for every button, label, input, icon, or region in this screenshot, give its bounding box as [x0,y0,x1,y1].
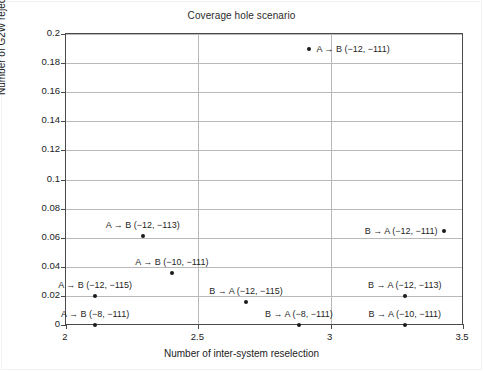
gridline-horizontal [66,238,462,239]
data-point-label: B → A (−12, −111) [365,226,438,236]
data-point-label: B → A (−12, −113) [368,280,441,290]
data-point [93,323,97,327]
gridline-horizontal [66,34,462,35]
gridline-horizontal [66,267,462,268]
tick-mark-y [61,209,66,210]
data-point [170,271,174,275]
y-tick-label: 0 [55,318,60,329]
gridline-horizontal [66,180,462,181]
x-axis-title: Number of inter-system reselection [0,348,483,359]
data-point-label: A → B (−10, −111) [135,257,208,267]
y-tick-label: 0.14 [42,114,61,125]
data-point-label: A → B (−12, −111) [316,44,389,54]
plot-area: A → B (−12, −111)B → A (−12, −111)A → B … [65,33,463,325]
tick-mark-y [61,63,66,64]
data-point-label: A → B (−12, −113) [106,220,180,230]
x-tick-label: 2 [45,331,85,342]
data-point [442,229,446,233]
y-tick-label: 0.02 [42,289,61,300]
data-point [141,234,145,238]
y-tick-label: 0.04 [42,260,61,271]
gridline-vertical [331,34,332,324]
gridline-vertical [198,34,199,324]
tick-mark-y [61,34,66,35]
chart-title: Coverage hole scenario [0,10,483,21]
y-tick-label: 0.2 [47,27,60,38]
data-point [403,294,407,298]
x-tick-label: 3.5 [442,331,482,342]
data-point [244,300,248,304]
data-point [403,323,407,327]
tick-mark-x [66,324,67,329]
y-tick-label: 0.1 [47,173,60,184]
y-tick-label: 0.06 [42,231,61,242]
data-point-label: B → A (−12, −115) [209,286,282,296]
tick-mark-y [61,180,66,181]
x-tick-label: 2.5 [177,331,217,342]
data-point-label: B → A (−8, −111) [265,309,333,319]
gridline-horizontal [66,209,462,210]
tick-mark-y [61,121,66,122]
tick-mark-y [61,238,66,239]
data-point [307,47,311,51]
tick-mark-x [463,324,464,329]
x-tick-label: 3 [310,331,350,342]
y-axis-title: Number of G2W rejects [0,0,7,95]
tick-mark-x [331,324,332,329]
y-tick-label: 0.12 [42,143,61,154]
y-tick-label: 0.18 [42,56,61,67]
gridline-horizontal [66,150,462,151]
data-point [93,294,97,298]
tick-mark-y [61,92,66,93]
gridline-horizontal [66,63,462,64]
tick-mark-y [61,296,66,297]
data-point [297,323,301,327]
tick-mark-x [198,324,199,329]
chart-figure: Coverage hole scenario A → B (−12, −111)… [0,0,483,371]
tick-mark-y [61,267,66,268]
gridline-horizontal [66,121,462,122]
tick-mark-y [61,150,66,151]
y-tick-label: 0.16 [42,85,61,96]
data-point-label: B → A (−10, −111) [368,309,441,319]
gridline-horizontal [66,92,462,93]
data-point-label: A → B (−8, −111) [61,309,129,319]
y-tick-label: 0.08 [42,202,61,213]
data-point-label: A → B (−12, −115) [58,280,132,290]
